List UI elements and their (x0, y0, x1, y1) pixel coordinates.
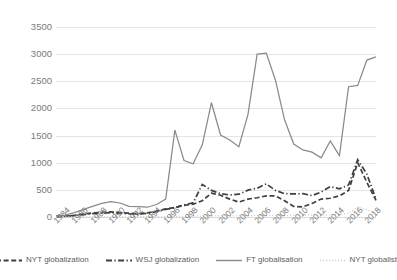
y-axis-tick-label: 2500 (31, 77, 52, 87)
legend-item[interactable]: NYT globalist (320, 256, 397, 264)
legend-item[interactable]: FT globalisation (216, 256, 302, 264)
legend-label: NYT globalist (350, 256, 397, 264)
y-axis-tick-label: 1000 (31, 158, 52, 168)
x-axis: 1984198619881990199219941996199820002002… (56, 219, 376, 249)
dash-dot-line-swatch (106, 257, 132, 264)
legend-item[interactable]: WSJ globalization (106, 256, 200, 264)
y-axis-tick-label: 1500 (31, 131, 52, 141)
solid-line-swatch (216, 257, 242, 264)
series-lines (56, 27, 376, 217)
legend-label: WSJ globalization (136, 256, 200, 264)
y-axis: 0500100015002000250030003500 (0, 27, 52, 217)
chart-legend: NYT globalizationWSJ globalizationFT glo… (0, 252, 393, 268)
dashed-line-swatch (0, 257, 22, 264)
y-axis-tick-label: 500 (36, 185, 52, 195)
plot-area (56, 27, 376, 217)
legend-label: NYT globalization (26, 256, 89, 264)
y-axis-tick-label: 3000 (31, 49, 52, 59)
legend-label: FT globalisation (246, 256, 302, 264)
legend-item[interactable]: NYT globalization (0, 256, 89, 264)
y-axis-tick-label: 2000 (31, 104, 52, 114)
y-axis-tick-label: 3500 (31, 22, 52, 32)
dotted-line-swatch (320, 257, 346, 264)
